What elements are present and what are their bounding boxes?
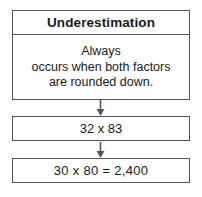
definition-header-title: Underestimation [13, 11, 189, 35]
definition-body-line-2: occurs when both factors [32, 60, 171, 76]
definition-body-line-1: Always [81, 44, 121, 60]
problem-box: 32 x 83 [12, 116, 190, 141]
answer-box: 30 x 80 = 2,400 [12, 158, 190, 183]
down-arrow-icon [0, 100, 202, 116]
definition-body: Always occurs when both factors are roun… [13, 35, 189, 100]
arrow-definition-to-problem [0, 100, 202, 116]
definition-box: Underestimation Always occurs when both … [12, 10, 190, 100]
down-arrow-icon [0, 142, 202, 158]
arrow-problem-to-answer [0, 142, 202, 158]
definition-body-line-3: are rounded down. [49, 75, 153, 91]
underestimation-flowchart: Underestimation Always occurs when both … [0, 0, 202, 197]
problem-expression: 32 x 83 [80, 121, 123, 136]
answer-expression: 30 x 80 = 2,400 [54, 163, 149, 178]
